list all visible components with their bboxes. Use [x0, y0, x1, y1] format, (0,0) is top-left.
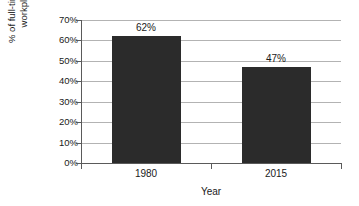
- y-axis-tick-label: 50%: [40, 56, 78, 66]
- plot-area: [81, 20, 341, 163]
- y-axis-title-line-1: % of full-time workers covered by: [6, 0, 18, 43]
- y-axis-tick-label: 10%: [40, 138, 78, 148]
- bar-chart: % of full-time workers covered by workpl…: [0, 0, 359, 206]
- y-axis-tick-label: 20%: [40, 117, 78, 127]
- x-axis-category-label: 1980: [81, 168, 211, 180]
- bar-value-label: 47%: [242, 53, 311, 64]
- y-axis-tick-label: 40%: [40, 76, 78, 86]
- y-axis-title: % of full-time workers covered by workpl…: [2, 0, 34, 48]
- bar: [112, 36, 181, 163]
- y-axis-tick-label: 0%: [40, 158, 78, 168]
- y-axis-title-line-2: workplace retirement plan: [18, 0, 30, 27]
- x-axis-category-label: 2015: [211, 168, 341, 180]
- y-axis-line: [81, 20, 82, 164]
- y-axis-tick-mark: [76, 20, 81, 21]
- y-axis-tick-mark: [76, 143, 81, 144]
- y-axis-tick-labels: 0%10%20%30%40%50%60%70%: [40, 20, 78, 163]
- gridline: [81, 20, 341, 21]
- y-axis-tick-label: 30%: [40, 97, 78, 107]
- y-axis-tick-mark: [76, 40, 81, 41]
- y-axis-tick-mark: [76, 61, 81, 62]
- x-axis-tick-mark: [341, 164, 342, 169]
- x-axis-title: Year: [81, 186, 341, 198]
- y-axis-tick-mark: [76, 122, 81, 123]
- y-axis-tick-label: 60%: [40, 35, 78, 45]
- x-axis-tick-mark: [211, 164, 212, 169]
- y-axis-tick-mark: [76, 81, 81, 82]
- bar: [242, 67, 311, 163]
- y-axis-tick-label: 70%: [40, 15, 78, 25]
- y-axis-tick-mark: [76, 102, 81, 103]
- bar-value-label: 62%: [112, 22, 181, 33]
- x-axis-tick-mark: [81, 164, 82, 169]
